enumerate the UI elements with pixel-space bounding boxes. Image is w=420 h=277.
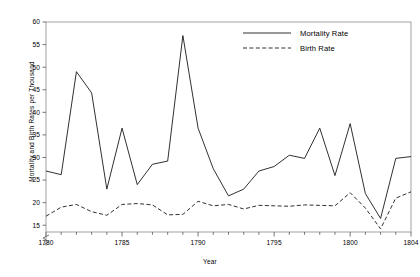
plot-frame bbox=[46, 22, 411, 232]
y-tick-label: 20 bbox=[32, 199, 40, 206]
series-line-birth-rate bbox=[46, 192, 411, 229]
y-tick-label: 15 bbox=[32, 222, 40, 229]
legend-label-birth-rate: Birth Rate bbox=[300, 44, 335, 53]
y-tick-label: 40 bbox=[32, 109, 40, 116]
y-tick-label: 25 bbox=[32, 176, 40, 183]
x-tick-label: 1790 bbox=[191, 239, 206, 246]
x-tick-label: 1785 bbox=[115, 239, 130, 246]
legend-label-mortality-rate: Mortality Rate bbox=[300, 29, 348, 38]
y-tick-label: 60 bbox=[32, 18, 40, 25]
y-tick-label: 55 bbox=[32, 41, 40, 48]
chart-figure: Mortality and Birth Rates per Thousand Y… bbox=[0, 0, 420, 277]
y-tick-label: 30 bbox=[32, 154, 40, 161]
y-tick-label: 50 bbox=[32, 64, 40, 71]
x-tick-label: 1800 bbox=[343, 239, 358, 246]
y-tick-label: 35 bbox=[32, 131, 40, 138]
x-tick-label: 1795 bbox=[267, 239, 282, 246]
line-chart-plot: 1520253035404550556017801785179017951800… bbox=[0, 0, 420, 277]
x-tick-label: 1804 bbox=[403, 239, 418, 246]
y-tick-label: 45 bbox=[32, 86, 40, 93]
series-line-mortality-rate bbox=[46, 36, 411, 219]
